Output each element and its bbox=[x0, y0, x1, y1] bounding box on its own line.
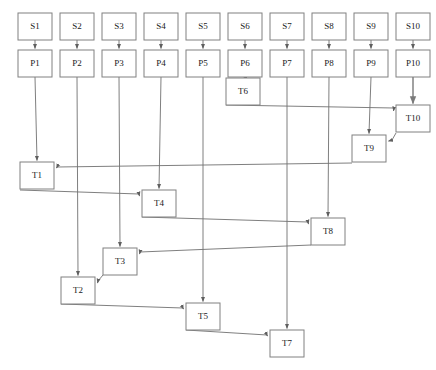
node-box-s10[interactable] bbox=[396, 13, 430, 40]
edge-t6-to-t10 bbox=[394, 108, 395, 111]
node-p6[interactable]: P6 bbox=[228, 50, 262, 77]
node-box-p6[interactable] bbox=[228, 50, 262, 77]
node-p2[interactable]: P2 bbox=[60, 50, 94, 77]
node-s2[interactable]: S2 bbox=[60, 13, 94, 40]
node-p4[interactable]: P4 bbox=[144, 50, 178, 77]
node-box-p3[interactable] bbox=[102, 50, 136, 77]
node-box-s9[interactable] bbox=[354, 13, 388, 40]
node-p3[interactable]: P3 bbox=[102, 50, 136, 77]
node-box-t7[interactable] bbox=[270, 330, 304, 357]
edge-t2-to-t5-seg bbox=[61, 304, 183, 308]
node-box-p5[interactable] bbox=[186, 50, 220, 77]
nodes-layer: S1S2S3S4S5S6S7S8S9S10P1P2P3P4P5P6P7P8P9P… bbox=[18, 13, 430, 357]
node-box-p2[interactable] bbox=[60, 50, 94, 77]
node-t6[interactable]: T6 bbox=[226, 78, 260, 105]
node-p5[interactable]: P5 bbox=[186, 50, 220, 77]
edge-p2-to-t2 bbox=[77, 77, 78, 276]
node-s5[interactable]: S5 bbox=[186, 13, 220, 40]
node-box-t4[interactable] bbox=[142, 190, 176, 217]
node-box-p8[interactable] bbox=[312, 50, 346, 77]
node-p8[interactable]: P8 bbox=[312, 50, 346, 77]
node-box-s4[interactable] bbox=[144, 13, 178, 40]
node-s3[interactable]: S3 bbox=[102, 13, 136, 40]
edge-t1-to-t4-seg bbox=[20, 190, 139, 194]
node-p1[interactable]: P1 bbox=[18, 50, 52, 77]
node-box-t2[interactable] bbox=[61, 277, 95, 304]
edge-t5-to-t7 bbox=[267, 335, 268, 336]
node-t3[interactable]: T3 bbox=[103, 248, 137, 275]
edge-p3-to-t3 bbox=[119, 77, 120, 247]
node-t5[interactable]: T5 bbox=[186, 303, 220, 330]
edge-t3-to-t2 bbox=[98, 281, 99, 283]
node-box-s8[interactable] bbox=[312, 13, 346, 40]
node-box-s7[interactable] bbox=[270, 13, 304, 40]
node-box-s5[interactable] bbox=[186, 13, 220, 40]
edge-t3-to-t2-seg bbox=[98, 275, 103, 281]
edge-p8-to-t8 bbox=[328, 77, 329, 217]
node-box-t3[interactable] bbox=[103, 248, 137, 275]
flow-diagram[interactable]: S1S2S3S4S5S6S7S8S9S10P1P2P3P4P5P6P7P8P9P… bbox=[0, 0, 436, 370]
node-box-s3[interactable] bbox=[102, 13, 136, 40]
edge-t8-to-t3 bbox=[140, 252, 141, 254]
edge-t10-to-t9 bbox=[389, 140, 393, 141]
node-box-t10[interactable] bbox=[396, 105, 430, 132]
node-t7[interactable]: T7 bbox=[270, 330, 304, 357]
edge-t10-to-t9-seg bbox=[392, 133, 396, 140]
node-t4[interactable]: T4 bbox=[142, 190, 176, 217]
node-box-p10[interactable] bbox=[396, 50, 430, 77]
node-box-p1[interactable] bbox=[18, 50, 52, 77]
node-box-s2[interactable] bbox=[60, 13, 94, 40]
edge-p1-to-t1 bbox=[35, 77, 37, 161]
node-box-t8[interactable] bbox=[311, 218, 345, 245]
edge-t4-to-t8 bbox=[308, 222, 309, 224]
edge-t9-to-t1 bbox=[57, 167, 58, 168]
edge-p4-to-t4 bbox=[159, 77, 161, 189]
node-s8[interactable]: S8 bbox=[312, 13, 346, 40]
edge-p9-to-t9 bbox=[369, 77, 371, 134]
node-p10[interactable]: P10 bbox=[396, 50, 430, 77]
node-s9[interactable]: S9 bbox=[354, 13, 388, 40]
node-s4[interactable]: S4 bbox=[144, 13, 178, 40]
node-p9[interactable]: P9 bbox=[354, 50, 388, 77]
diagram-canvas: S1S2S3S4S5S6S7S8S9S10P1P2P3P4P5P6P7P8P9P… bbox=[0, 0, 436, 370]
node-s10[interactable]: S10 bbox=[396, 13, 430, 40]
node-box-t9[interactable] bbox=[352, 135, 386, 162]
node-box-t6[interactable] bbox=[226, 78, 260, 105]
edge-t1-to-t4 bbox=[139, 194, 140, 196]
edge-t9-to-t1-seg bbox=[57, 163, 352, 167]
edge-t5-to-t7-seg bbox=[186, 330, 267, 335]
node-t8[interactable]: T8 bbox=[311, 218, 345, 245]
node-t1[interactable]: T1 bbox=[20, 162, 54, 189]
node-s6[interactable]: S6 bbox=[228, 13, 262, 40]
node-p7[interactable]: P7 bbox=[270, 50, 304, 77]
node-t9[interactable]: T9 bbox=[352, 135, 386, 162]
node-t10[interactable]: T10 bbox=[396, 105, 430, 132]
node-t2[interactable]: T2 bbox=[61, 277, 95, 304]
node-box-t5[interactable] bbox=[186, 303, 220, 330]
node-box-p7[interactable] bbox=[270, 50, 304, 77]
node-box-p9[interactable] bbox=[354, 50, 388, 77]
node-box-t1[interactable] bbox=[20, 162, 54, 189]
edge-t4-to-t8-seg bbox=[142, 217, 308, 222]
node-box-s1[interactable] bbox=[18, 13, 52, 40]
node-box-s6[interactable] bbox=[228, 13, 262, 40]
edge-t2-to-t5 bbox=[183, 308, 184, 309]
node-s7[interactable]: S7 bbox=[270, 13, 304, 40]
node-box-p4[interactable] bbox=[144, 50, 178, 77]
edge-t8-to-t3-seg bbox=[140, 245, 311, 252]
node-s1[interactable]: S1 bbox=[18, 13, 52, 40]
